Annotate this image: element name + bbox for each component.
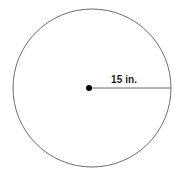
center-point-dot	[86, 85, 92, 91]
radius-length-label: 15 in.	[111, 74, 137, 86]
circle-with-radius-diagram: 15 in.	[0, 0, 183, 176]
diagram-canvas	[0, 0, 183, 176]
